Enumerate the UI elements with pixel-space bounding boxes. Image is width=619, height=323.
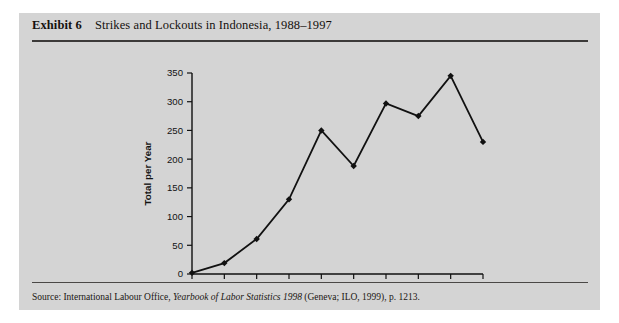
y-tick-label: 100 xyxy=(167,211,183,222)
line-chart: 050100150200250300350 198819891990199119… xyxy=(19,41,600,283)
axis-lines xyxy=(192,73,483,274)
data-point-marker xyxy=(383,100,389,106)
y-tick-label: 300 xyxy=(167,96,183,107)
exhibit-label: Exhibit 6 xyxy=(32,18,82,32)
source-divider xyxy=(32,282,588,283)
series-line xyxy=(192,76,483,273)
figure-caption-bar: Exhibit 6Strikes and Lockouts in Indones… xyxy=(19,13,600,41)
source-suffix: (Geneva; ILO, 1999), p. 1213. xyxy=(302,292,420,302)
y-axis-title: Total per Year xyxy=(142,141,153,205)
y-tick-label: 250 xyxy=(167,125,183,136)
page-title: Strikes and Lockouts in Indonesia, 1988–… xyxy=(95,18,332,32)
data-point-marker xyxy=(480,139,486,145)
y-tick-label: 50 xyxy=(172,240,183,251)
exhibit-figure-panel: Exhibit 6Strikes and Lockouts in Indones… xyxy=(19,13,600,310)
y-tick-label: 150 xyxy=(167,182,183,193)
series-markers xyxy=(189,73,486,276)
source-title: Yearbook of Labor Statistics 1998 xyxy=(173,292,302,302)
data-point-marker xyxy=(189,270,195,276)
source-note: Source: International Labour Office, Yea… xyxy=(32,292,420,302)
y-tick-label: 350 xyxy=(167,67,183,78)
chart-plot-area: 050100150200250300350 198819891990199119… xyxy=(19,41,600,283)
y-axis-ticks: 050100150200250300350 xyxy=(167,67,192,279)
y-tick-label: 0 xyxy=(178,268,183,279)
figure-caption: Exhibit 6Strikes and Lockouts in Indones… xyxy=(32,18,332,33)
source-prefix: Source: International Labour Office, xyxy=(32,292,173,302)
y-tick-label: 200 xyxy=(167,154,183,165)
